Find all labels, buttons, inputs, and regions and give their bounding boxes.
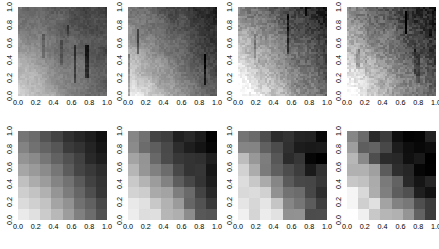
y-axis-ticks-7: 1.00.80.60.40.20.0 [331,131,345,220]
x-axis-ticks-4: 0.00.20.40.60.81.0 [18,222,107,234]
y-tick-label: 0.8 [115,144,124,154]
x-tick-label: 1.0 [431,98,439,107]
y-tick-label: 0.4 [5,179,14,189]
y-tick-label: 0.6 [225,38,234,48]
y-tick-label: 0.8 [5,144,14,154]
x-tick-label: 0.6 [66,222,76,231]
y-tick-label: 0.0 [225,215,234,225]
x-axis-ticks-7: 0.00.20.40.60.81.0 [347,222,436,234]
x-tick-label: 0.6 [66,98,76,107]
y-tick-label: 0.2 [225,197,234,207]
y-tick-label: 0.2 [5,73,14,83]
x-tick-label: 0.6 [395,98,405,107]
heatmap-panel-4: 0.00.20.40.60.81.01.00.80.60.40.20.0 [0,124,110,248]
heatmap-plot-area-4 [18,131,107,220]
x-tick-label: 0.0 [123,222,133,231]
x-tick-label: 0.4 [269,222,279,231]
heatmap-panel-0: 0.00.20.40.60.81.01.00.80.60.40.20.0 [0,0,110,124]
x-tick-label: 0.8 [413,222,423,231]
heatmap-panel-5: 0.00.20.40.60.81.01.00.80.60.40.20.0 [110,124,220,248]
x-tick-label: 0.0 [342,98,352,107]
x-tick-label: 0.2 [141,222,151,231]
y-tick-label: 0.2 [334,73,343,83]
y-tick-label: 1.0 [334,2,343,12]
y-tick-label: 0.8 [334,144,343,154]
x-axis-ticks-1: 0.00.20.40.60.81.0 [128,98,217,110]
x-tick-label: 0.0 [13,98,23,107]
y-tick-label: 0.4 [225,55,234,65]
y-tick-label: 0.8 [5,20,14,30]
x-tick-label: 0.6 [176,98,186,107]
x-tick-label: 0.2 [251,222,261,231]
heatmap-image-0 [18,7,107,96]
figure-canvas: 0.00.20.40.60.81.01.00.80.60.40.20.00.00… [0,0,439,249]
heatmap-plot-area-2 [238,7,327,96]
heatmap-panel-7: 0.00.20.40.60.81.01.00.80.60.40.20.0 [329,124,439,248]
y-axis-ticks-3: 1.00.80.60.40.20.0 [331,7,345,96]
heatmap-image-4 [18,131,107,220]
heatmap-image-2 [238,7,327,96]
y-tick-label: 1.0 [115,126,124,136]
y-tick-label: 0.0 [334,91,343,101]
x-tick-label: 0.2 [31,98,41,107]
heatmap-plot-area-6 [238,131,327,220]
x-tick-label: 1.0 [431,222,439,231]
x-tick-label: 0.8 [84,98,94,107]
y-tick-label: 0.0 [334,215,343,225]
x-axis-ticks-3: 0.00.20.40.60.81.0 [347,98,436,110]
x-tick-label: 0.8 [194,222,204,231]
x-tick-label: 0.4 [49,98,59,107]
heatmap-image-7 [347,131,436,220]
y-tick-label: 0.2 [115,197,124,207]
y-tick-label: 1.0 [5,2,14,12]
y-tick-label: 0.6 [115,162,124,172]
y-axis-ticks-0: 1.00.80.60.40.20.0 [2,7,16,96]
x-tick-label: 0.6 [286,98,296,107]
y-tick-label: 0.2 [115,73,124,83]
heatmap-image-1 [128,7,217,96]
heatmap-plot-area-5 [128,131,217,220]
y-tick-label: 0.6 [334,162,343,172]
heatmap-panel-1: 0.00.20.40.60.81.01.00.80.60.40.20.0 [110,0,220,124]
heatmap-plot-area-7 [347,131,436,220]
y-tick-label: 1.0 [5,126,14,136]
y-tick-label: 0.8 [334,20,343,30]
x-tick-label: 0.4 [159,222,169,231]
x-axis-ticks-0: 0.00.20.40.60.81.0 [18,98,107,110]
y-tick-label: 0.2 [225,73,234,83]
x-tick-label: 0.8 [413,98,423,107]
y-axis-ticks-6: 1.00.80.60.40.20.0 [222,131,236,220]
x-axis-ticks-6: 0.00.20.40.60.81.0 [238,222,327,234]
heatmap-panel-3: 0.00.20.40.60.81.01.00.80.60.40.20.0 [329,0,439,124]
x-tick-label: 0.0 [13,222,23,231]
y-tick-label: 0.0 [5,215,14,225]
y-tick-label: 0.8 [225,144,234,154]
y-tick-label: 0.8 [115,20,124,30]
x-axis-ticks-2: 0.00.20.40.60.81.0 [238,98,327,110]
x-tick-label: 0.0 [342,222,352,231]
heatmap-panel-2: 0.00.20.40.60.81.01.00.80.60.40.20.0 [220,0,330,124]
y-axis-ticks-1: 1.00.80.60.40.20.0 [112,7,126,96]
y-tick-label: 0.4 [5,55,14,65]
x-tick-label: 0.4 [159,98,169,107]
y-axis-ticks-4: 1.00.80.60.40.20.0 [2,131,16,220]
x-tick-label: 0.8 [304,222,314,231]
x-tick-label: 0.0 [233,222,243,231]
y-tick-label: 0.0 [115,91,124,101]
y-tick-label: 0.4 [225,179,234,189]
y-tick-label: 0.4 [115,55,124,65]
y-tick-label: 0.6 [5,162,14,172]
y-tick-label: 1.0 [115,2,124,12]
x-tick-label: 0.8 [194,98,204,107]
x-tick-label: 0.8 [304,98,314,107]
y-tick-label: 0.2 [5,197,14,207]
y-tick-label: 0.6 [115,38,124,48]
x-tick-label: 0.0 [233,98,243,107]
heatmap-plot-area-3 [347,7,436,96]
y-tick-label: 1.0 [334,126,343,136]
y-tick-label: 0.4 [334,55,343,65]
y-axis-ticks-2: 1.00.80.60.40.20.0 [222,7,236,96]
x-tick-label: 0.2 [141,98,151,107]
x-tick-label: 0.6 [286,222,296,231]
heatmap-panel-6: 0.00.20.40.60.81.01.00.80.60.40.20.0 [220,124,330,248]
